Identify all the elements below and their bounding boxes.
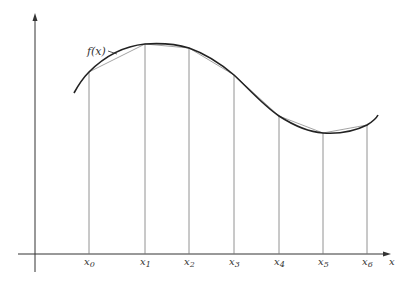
tick-label-x4: x4 (274, 256, 285, 269)
tick-label-x0: x0 (84, 256, 95, 269)
tick-label-x5: x5 (318, 256, 329, 269)
axes (18, 13, 391, 272)
curve-label-group: f(x) (86, 45, 117, 58)
ordinate-lines (89, 44, 367, 254)
tick-labels: x0 x1 x2 x3 x4 x5 x6 x (84, 256, 395, 269)
curve-label: f(x) (86, 45, 106, 58)
tick-label-x2: x2 (184, 256, 195, 269)
tick-label-x6: x6 (362, 256, 373, 269)
x-axis-label: x (389, 256, 395, 267)
y-axis-arrow-icon (33, 13, 38, 21)
tick-label-x1: x1 (140, 256, 151, 269)
tick-label-x3: x3 (229, 256, 240, 269)
chord-polyline (89, 44, 367, 133)
piecewise-linear-approximation-diagram: f(x) x0 x1 x2 x3 x4 x5 x6 x (0, 0, 414, 281)
